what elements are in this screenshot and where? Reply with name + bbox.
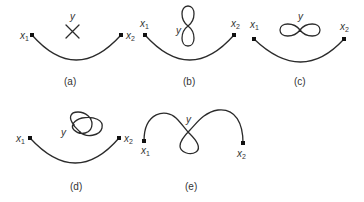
arc-x1-x2 bbox=[254, 39, 344, 62]
panel-c: x1 x2 y (c) bbox=[249, 11, 349, 87]
caption-d: (d) bbox=[70, 181, 82, 192]
point-x1 bbox=[30, 33, 34, 37]
figure-eight-vertical-icon bbox=[182, 6, 194, 46]
label-x1: x1 bbox=[15, 133, 25, 145]
looped-path-x1-x2 bbox=[144, 110, 243, 154]
point-x2 bbox=[119, 33, 123, 37]
label-x2: x2 bbox=[123, 133, 133, 145]
label-y: y bbox=[60, 127, 67, 138]
infinity-icon bbox=[280, 24, 320, 36]
point-x1 bbox=[142, 139, 146, 143]
caption-a: (a) bbox=[64, 76, 76, 87]
caption-e: (e) bbox=[185, 181, 197, 192]
label-x2: x2 bbox=[230, 18, 240, 30]
label-y: y bbox=[69, 11, 76, 22]
point-x2 bbox=[241, 141, 245, 145]
label-x1: x1 bbox=[249, 19, 259, 31]
label-y: y bbox=[185, 114, 192, 125]
label-x2: x2 bbox=[125, 30, 135, 42]
diagram-canvas: x1 x2 y (a) x1 x2 y (b) x1 x2 y (c) x1 bbox=[0, 0, 364, 202]
label-x1: x1 bbox=[19, 30, 29, 42]
label-x1: x1 bbox=[139, 18, 149, 30]
label-y: y bbox=[175, 25, 182, 36]
arc-x1-x2 bbox=[32, 35, 121, 60]
point-x1 bbox=[252, 37, 256, 41]
label-x2: x2 bbox=[339, 21, 349, 33]
panel-b: x1 x2 y (b) bbox=[139, 6, 240, 87]
panel-d: x1 x2 y (d) bbox=[15, 112, 133, 192]
arc-x1-x2 bbox=[145, 35, 234, 60]
label-x1: x1 bbox=[140, 145, 150, 157]
caption-b: (b) bbox=[183, 76, 195, 87]
point-x2 bbox=[117, 136, 121, 140]
point-x1 bbox=[143, 33, 147, 37]
label-x2: x2 bbox=[236, 148, 246, 160]
panel-a: x1 x2 y (a) bbox=[19, 11, 135, 87]
point-x1 bbox=[28, 136, 32, 140]
knot-icon bbox=[71, 112, 103, 135]
panel-e: x1 x2 y (e) bbox=[140, 110, 246, 192]
arc-x1-x2 bbox=[30, 138, 119, 163]
point-x2 bbox=[342, 37, 346, 41]
label-y: y bbox=[297, 11, 304, 22]
caption-c: (c) bbox=[294, 76, 306, 87]
point-x2 bbox=[232, 33, 236, 37]
cross-point-icon bbox=[66, 25, 79, 38]
